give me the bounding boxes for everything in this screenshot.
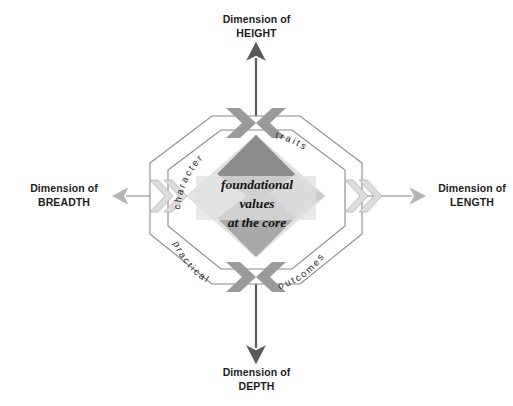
axis-label-depth-line1: Dimension of [189,366,324,380]
core-values-line3: at the core [192,213,322,232]
axis-label-height-line1: Dimension of [189,13,324,27]
axis-label-breadth-line1: Dimension of [12,182,116,196]
core-values-line2: values [192,194,322,213]
axis-label-depth-line2: DEPTH [189,380,324,394]
core-values-line1: foundational [192,175,322,194]
core-values-text: foundational values at the core [192,175,322,232]
axis-label-length-line2: LENGTH [420,196,513,210]
axis-label-length-line1: Dimension of [420,182,513,196]
axis-label-breadth-line2: BREADTH [12,196,116,210]
axis-label-breadth: Dimension of BREADTH [12,182,116,210]
diagram-canvas: Dimension of HEIGHT Dimension of DEPTH D… [0,0,513,406]
axis-label-length: Dimension of LENGTH [420,182,513,210]
axis-label-depth: Dimension of DEPTH [189,366,324,394]
axis-label-height-line2: HEIGHT [189,27,324,41]
axis-label-height: Dimension of HEIGHT [189,13,324,41]
